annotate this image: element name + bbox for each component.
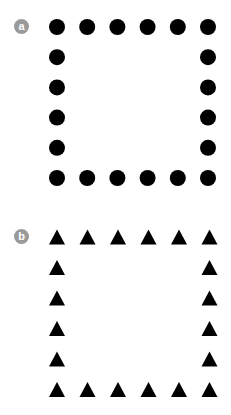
triangle: [202, 260, 218, 275]
triangle: [110, 230, 126, 245]
triangle: [80, 382, 96, 397]
dot: [49, 49, 65, 65]
dot: [200, 49, 216, 65]
triangle: [202, 352, 218, 367]
triangle: [141, 230, 157, 245]
figure-a: a: [0, 0, 231, 207]
triangle: [49, 230, 65, 245]
triangle: [49, 382, 65, 397]
triangle: [110, 382, 126, 397]
triangle: [49, 352, 65, 367]
triangle: [49, 260, 65, 275]
dot: [200, 19, 216, 35]
triangle: [171, 230, 187, 245]
dot: [109, 170, 125, 186]
triangle: [141, 382, 157, 397]
dot: [170, 19, 186, 35]
dot: [200, 110, 216, 126]
dot: [140, 170, 156, 186]
triangle: [80, 230, 96, 245]
triangle: [202, 382, 218, 397]
triangle: [202, 291, 218, 306]
figure-b: b: [0, 207, 231, 414]
dot: [49, 19, 65, 35]
dot: [109, 19, 125, 35]
triangle: [49, 291, 65, 306]
triangle-square: [0, 207, 231, 414]
triangle: [171, 382, 187, 397]
triangle: [202, 230, 218, 245]
dot: [49, 140, 65, 156]
dot: [170, 170, 186, 186]
triangle: [49, 321, 65, 336]
dot-square: [0, 0, 231, 207]
dot: [49, 79, 65, 95]
dot: [140, 19, 156, 35]
dot: [79, 19, 95, 35]
dot: [200, 170, 216, 186]
dot: [79, 170, 95, 186]
dot: [200, 79, 216, 95]
dot: [49, 110, 65, 126]
triangle: [202, 321, 218, 336]
dot: [49, 170, 65, 186]
dot: [200, 140, 216, 156]
